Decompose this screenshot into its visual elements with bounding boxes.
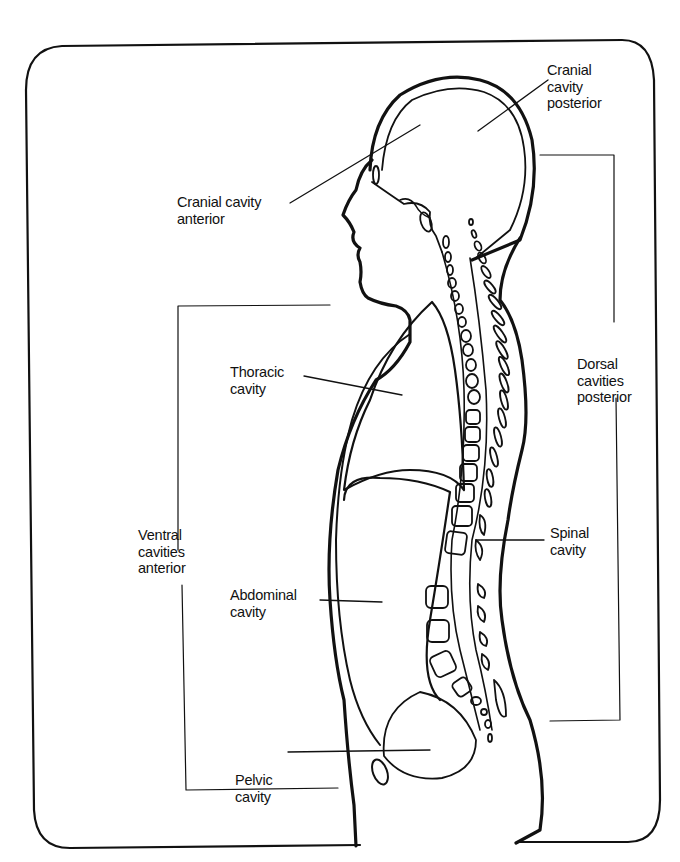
pubic-bone <box>369 757 391 786</box>
leader-pelvic <box>288 750 430 752</box>
label-cranial-cavity-anterior: Cranial cavity anterior <box>177 194 261 227</box>
frame-border <box>26 40 660 848</box>
label-spinal-cavity: Spinal cavity <box>550 525 589 558</box>
thoracic-cavity-outline <box>344 302 464 490</box>
body-cavities-diagram <box>0 0 680 862</box>
label-thoracic-cavity: Thoracic cavity <box>230 364 284 397</box>
pelvic-cavity-outline <box>384 692 476 779</box>
label-abdominal-cavity: Abdominal cavity <box>230 587 297 620</box>
label-cranial-cavity-posterior: Cranial cavity posterior <box>547 62 602 112</box>
skull-inner <box>382 88 525 258</box>
label-dorsal-cavities: Dorsal cavities posterior <box>577 356 632 406</box>
dorsal-bracket <box>540 155 620 721</box>
skull-outline <box>370 77 534 260</box>
leader-cranial-posterior <box>478 80 548 131</box>
abdominal-wall <box>336 334 410 745</box>
body-front-outline <box>329 160 410 846</box>
cranial-floor <box>372 182 442 252</box>
label-pelvic-cavity: Pelvic cavity <box>235 772 272 805</box>
leader-thoracic <box>304 376 402 395</box>
abdominal-cavity-outline <box>344 478 450 700</box>
label-ventral-cavities: Ventral cavities anterior <box>138 527 186 577</box>
